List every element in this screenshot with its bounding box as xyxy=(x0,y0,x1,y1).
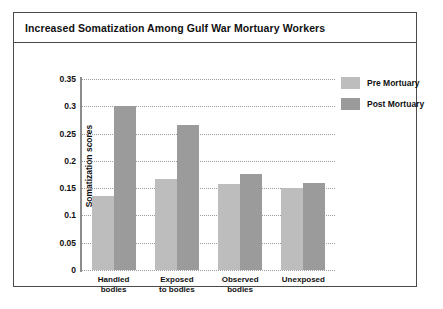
x-axis-label-line: Handled xyxy=(83,275,145,285)
bar-group xyxy=(218,79,262,270)
bar-post-mortuary xyxy=(303,183,325,270)
legend-item: Pre Mortuary xyxy=(341,77,417,89)
legend-item: Post Mortuary xyxy=(341,98,417,110)
y-axis-tick-label: 0 xyxy=(40,265,76,275)
bar-post-mortuary xyxy=(240,174,262,270)
bar-post-mortuary xyxy=(114,106,136,270)
figure-panel: Increased Somatization Among Gulf War Mo… xyxy=(13,12,417,287)
plot-area xyxy=(82,79,335,270)
bar-group xyxy=(281,79,325,270)
x-axis-label-line: bodies xyxy=(83,285,145,295)
bar-pre-mortuary xyxy=(92,196,114,270)
bar-pre-mortuary xyxy=(155,179,177,270)
y-axis-tick-label: 0.3 xyxy=(40,101,76,111)
x-axis-label-line: Unexposed xyxy=(272,275,334,285)
bar-group xyxy=(92,79,136,270)
x-axis-label-line: Exposed xyxy=(146,275,208,285)
legend: Pre MortuaryPost Mortuary xyxy=(341,77,417,119)
title-bar: Increased Somatization Among Gulf War Mo… xyxy=(14,13,416,43)
gridline xyxy=(82,270,335,272)
y-axis-tick-label: 0.05 xyxy=(40,238,76,248)
y-axis-tick-label: 0.15 xyxy=(40,183,76,193)
y-axis-tick-label: 0.25 xyxy=(40,129,76,139)
y-axis-ticks: 00.050.10.150.20.250.30.35 xyxy=(40,43,76,287)
bar-groups xyxy=(82,79,335,270)
y-axis-tick-label: 0.1 xyxy=(40,210,76,220)
bar-post-mortuary xyxy=(177,125,199,270)
y-axis-tick-label: 0.2 xyxy=(40,156,76,166)
legend-label: Pre Mortuary xyxy=(367,78,419,88)
bar-group xyxy=(155,79,199,270)
bar-pre-mortuary xyxy=(218,184,240,270)
legend-swatch xyxy=(341,77,360,89)
x-axis-label-line: bodies xyxy=(209,285,271,295)
x-axis-label-line: Observed xyxy=(209,275,271,285)
legend-swatch xyxy=(341,98,360,110)
x-axis-labels: HandledbodiesExposedto bodiesObservedbod… xyxy=(82,275,335,295)
x-axis-label: Exposedto bodies xyxy=(146,275,208,295)
bar-pre-mortuary xyxy=(281,188,303,270)
x-axis-label: Handledbodies xyxy=(83,275,145,295)
x-axis-label: Unexposed xyxy=(272,275,334,295)
page-title: Increased Somatization Among Gulf War Mo… xyxy=(14,22,325,34)
chart-body: Somatization scores 00.050.10.150.20.250… xyxy=(14,43,416,287)
x-axis-label: Observedbodies xyxy=(209,275,271,295)
x-axis-label-line: to bodies xyxy=(146,285,208,295)
y-axis-tick-label: 0.35 xyxy=(40,74,76,84)
legend-label: Post Mortuary xyxy=(367,99,424,109)
